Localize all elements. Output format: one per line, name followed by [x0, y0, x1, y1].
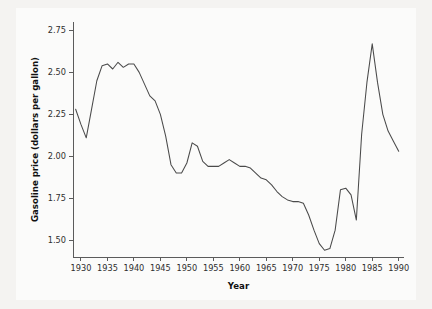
x-tick-label: 1960: [229, 263, 250, 273]
data-line-gasoline-price: [76, 44, 399, 250]
y-tick-label: 2.25: [48, 109, 66, 119]
y-tick-label: 1.50: [48, 235, 66, 245]
x-axis-title: Year: [227, 281, 250, 291]
y-axis-title: Gasoline price (dollars per gallon): [30, 57, 40, 222]
plot-card: 1.501.752.002.252.502.75 193019351940194…: [16, 8, 416, 300]
data-series-layer: [76, 44, 399, 250]
x-axis-tick-labels: 1930193519401945195019551960196519701975…: [71, 263, 410, 273]
x-tick-label: 1970: [282, 263, 303, 273]
x-tick-label: 1945: [150, 263, 171, 273]
x-tick-label: 1990: [388, 263, 409, 273]
figure-canvas: 1.501.752.002.252.502.75 193019351940194…: [0, 0, 432, 309]
x-tick-label: 1955: [203, 263, 224, 273]
x-tick-label: 1975: [309, 263, 330, 273]
x-tick-label: 1980: [335, 263, 356, 273]
x-tick-label: 1985: [362, 263, 383, 273]
x-tick-label: 1935: [97, 263, 118, 273]
y-axis-tick-labels: 1.501.752.002.252.502.75: [48, 25, 66, 245]
axes-layer: [73, 22, 404, 257]
x-tick-label: 1940: [123, 263, 144, 273]
x-tick-label: 1965: [256, 263, 277, 273]
y-tick-label: 1.75: [48, 193, 66, 203]
y-tick-label: 2.00: [48, 151, 66, 161]
x-tick-label: 1930: [71, 263, 92, 273]
y-tick-label: 2.75: [48, 25, 66, 35]
gasoline-price-line-chart: 1.501.752.002.252.502.75 193019351940194…: [16, 8, 416, 300]
tick-marks-layer: [69, 30, 399, 261]
y-tick-label: 2.50: [48, 67, 66, 77]
x-tick-label: 1950: [176, 263, 197, 273]
